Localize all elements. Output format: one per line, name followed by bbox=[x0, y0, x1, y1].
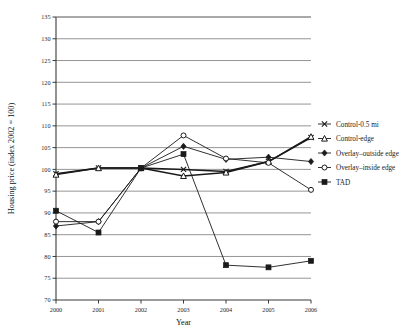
x-tick-label: 2004 bbox=[220, 306, 232, 313]
square-filled-shape bbox=[181, 152, 186, 157]
legend-label: Control-0.5 mi bbox=[336, 121, 379, 129]
diamond-filled-shape bbox=[322, 150, 327, 156]
x-tick-label: 2005 bbox=[262, 306, 274, 313]
marker-circle-open bbox=[224, 156, 229, 161]
x-tick-label: 2006 bbox=[305, 306, 317, 313]
y-tick-label: 90 bbox=[44, 209, 50, 216]
x-axis-group: 2000200120022003200420052006 bbox=[50, 300, 317, 313]
marker-square-filled bbox=[54, 208, 59, 213]
series-polyline bbox=[56, 154, 311, 267]
marker-circle-open bbox=[54, 219, 59, 224]
marker-square-filled bbox=[139, 166, 144, 171]
x-axis-title: Year bbox=[176, 318, 191, 327]
marker-circle-open bbox=[266, 160, 271, 165]
legend-item-overlay-inside-edge[interactable]: Overlay–inside edge bbox=[318, 164, 395, 172]
legend-label: Overlay–outside edge bbox=[336, 150, 399, 158]
y-tick-label: 75 bbox=[44, 274, 50, 281]
y-tick-label: 105 bbox=[41, 144, 50, 151]
legend-label: TAD bbox=[336, 179, 350, 187]
circle-open-shape bbox=[224, 156, 229, 161]
square-filled-shape bbox=[139, 166, 144, 171]
legend-item-control-0-5-mi[interactable]: Control-0.5 mi bbox=[318, 121, 379, 129]
square-filled-shape bbox=[309, 258, 314, 263]
legend: Control-0.5 miControl-edgeOverlay–outsid… bbox=[318, 121, 399, 187]
marker-diamond-filled bbox=[322, 150, 327, 156]
square-filled-shape bbox=[96, 230, 101, 235]
diamond-filled-shape bbox=[308, 158, 313, 164]
marker-square-filled bbox=[181, 152, 186, 157]
circle-open-shape bbox=[322, 165, 327, 170]
marker-square-filled bbox=[309, 258, 314, 263]
y-tick-label: 85 bbox=[44, 231, 50, 238]
y-tick-label: 120 bbox=[41, 79, 50, 86]
marker-triangle-open bbox=[308, 134, 314, 140]
y-tick-label: 125 bbox=[41, 57, 50, 64]
circle-open-shape bbox=[181, 133, 186, 138]
legend-item-tad[interactable]: TAD bbox=[318, 179, 350, 187]
y-tick-label: 115 bbox=[41, 100, 50, 107]
marker-square-filled bbox=[266, 265, 271, 270]
y-tick-label: 80 bbox=[44, 253, 50, 260]
circle-open-shape bbox=[266, 160, 271, 165]
marker-square-filled bbox=[322, 180, 327, 185]
marker-diamond-filled bbox=[308, 158, 313, 164]
x-tick-label: 2000 bbox=[50, 306, 62, 313]
y-tick-label: 70 bbox=[44, 296, 50, 303]
triangle-open-shape bbox=[308, 134, 314, 140]
square-filled-shape bbox=[54, 208, 59, 213]
y-tick-label: 110 bbox=[41, 122, 50, 129]
legend-item-overlay-outside-edge[interactable]: Overlay–outside edge bbox=[318, 150, 399, 158]
y-tick-label: 130 bbox=[41, 35, 50, 42]
x-tick-label: 2001 bbox=[92, 306, 104, 313]
y-tick-label: 100 bbox=[41, 166, 50, 173]
circle-open-shape bbox=[309, 187, 314, 192]
y-tick-label: 135 bbox=[41, 13, 50, 20]
marker-circle-open bbox=[181, 133, 186, 138]
legend-label: Control-edge bbox=[336, 135, 374, 143]
marker-circle-open bbox=[309, 187, 314, 192]
chart-canvas: 7075808590951001051101151201251301352000… bbox=[0, 0, 420, 336]
square-filled-shape bbox=[266, 265, 271, 270]
x-tick-label: 2002 bbox=[135, 306, 147, 313]
marker-square-filled bbox=[224, 263, 229, 268]
y-axis-title: Housing price (index 2002 = 100) bbox=[7, 103, 16, 215]
marker-circle-open bbox=[322, 165, 327, 170]
square-filled-shape bbox=[224, 263, 229, 268]
square-filled-shape bbox=[322, 180, 327, 185]
circle-open-shape bbox=[54, 219, 59, 224]
marker-diamond-filled bbox=[181, 143, 186, 149]
diamond-filled-shape bbox=[181, 143, 186, 149]
marker-square-filled bbox=[96, 230, 101, 235]
legend-label: Overlay–inside edge bbox=[336, 164, 395, 172]
y-tick-label: 95 bbox=[44, 187, 50, 194]
x-tick-label: 2003 bbox=[177, 306, 189, 313]
housing-price-line-chart: 7075808590951001051101151201251301352000… bbox=[0, 0, 420, 336]
marker-circle-open bbox=[96, 219, 101, 224]
circle-open-shape bbox=[96, 219, 101, 224]
legend-item-control-edge[interactable]: Control-edge bbox=[318, 135, 374, 143]
